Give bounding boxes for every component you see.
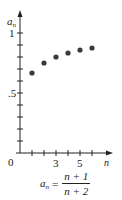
point-n3	[53, 54, 58, 59]
formula-lhs: an	[40, 177, 49, 191]
formula-equals: =	[52, 178, 58, 190]
data-points	[29, 45, 94, 75]
point-n4	[65, 50, 70, 55]
point-n2	[41, 60, 46, 65]
formula-denominator: n + 2	[64, 184, 88, 197]
y-tick-label-1: 1	[9, 28, 15, 39]
point-n6	[89, 45, 94, 50]
point-n1	[29, 70, 34, 75]
point-n5	[77, 47, 82, 52]
sequence-formula: an = n + 1 n + 2	[40, 170, 90, 197]
y-axis-arrow-icon	[18, 10, 23, 17]
y-tick-label-half: .5	[8, 88, 16, 99]
x-tick-label-5: 5	[77, 158, 83, 169]
x-axis-arrow-icon	[106, 151, 113, 156]
formula-fraction: n + 1 n + 2	[62, 170, 90, 197]
x-tick-label-3: 3	[53, 158, 59, 169]
origin-label: 0	[8, 157, 14, 168]
formula-numerator: n + 1	[62, 170, 90, 184]
x-axis-label: n	[104, 158, 109, 168]
